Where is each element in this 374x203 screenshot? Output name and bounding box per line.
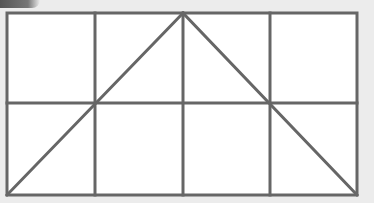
diagram-canvas <box>0 0 374 203</box>
grid-triangle-diagram <box>0 0 374 203</box>
